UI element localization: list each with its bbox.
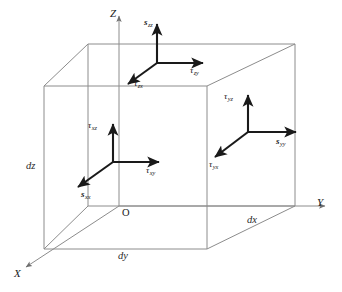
stress-label-tau-xy: τxy: [146, 166, 155, 175]
axis-label-y: Y: [317, 197, 323, 208]
glyph-tau-yz: τ: [224, 91, 227, 101]
glyph-tau-zy: τ: [190, 65, 193, 75]
glyph-sigma-yy: s: [276, 136, 280, 146]
glyph-tau-zx: τ: [134, 78, 137, 88]
axis-x-line: [26, 206, 119, 267]
stress-label-tau-yx: τyx: [209, 160, 218, 169]
dimension-label-dx: dx: [247, 215, 257, 226]
stress-label-tau-yz: τyz: [224, 92, 232, 101]
axis-label-z: Z: [110, 8, 116, 19]
subscript-tau-zy: zy: [194, 69, 199, 76]
glyph-tau-xz: τ: [88, 120, 91, 130]
subscript-tau-xz: xz: [92, 124, 97, 131]
dimension-label-dy: dy: [118, 251, 128, 262]
subscript-tau-xy: xy: [150, 169, 156, 176]
stress-label-tau-xz: τxz: [88, 121, 96, 130]
subscript-tau-yz: yz: [228, 95, 233, 102]
stress-triad-top-face: [128, 24, 203, 84]
stress-label-tau-zy: τzy: [190, 66, 198, 75]
stress-triad-right-face: [215, 95, 296, 157]
glyph-tau-xy: τ: [146, 165, 149, 175]
stress-label-sigma-yy: syy: [276, 137, 285, 146]
glyph-sigma-zz: s: [144, 17, 148, 27]
stress-label-sigma-xx: sxx: [81, 190, 90, 199]
subscript-sigma-xx: xx: [85, 193, 91, 200]
cube-receding-edges: [44, 44, 295, 249]
glyph-tau-yx: τ: [209, 159, 212, 169]
glyph-sigma-xx: s: [81, 189, 85, 199]
stress-label-sigma-zz: szz: [144, 18, 152, 27]
subscript-tau-zx: zx: [138, 82, 143, 89]
stress-element-figure: Z Y X O dz dy dx szz τzy τzx τxz τxy sxx…: [0, 0, 342, 292]
stress-label-tau-zx: τzx: [134, 79, 142, 88]
dimension-label-dz: dz: [26, 161, 35, 172]
axis-label-x: X: [14, 268, 21, 279]
subscript-sigma-zz: zz: [148, 21, 153, 28]
subscript-tau-yx: yx: [213, 163, 219, 170]
figure-canvas: [0, 0, 342, 292]
subscript-sigma-yy: yy: [280, 140, 286, 147]
origin-label: O: [122, 208, 130, 219]
